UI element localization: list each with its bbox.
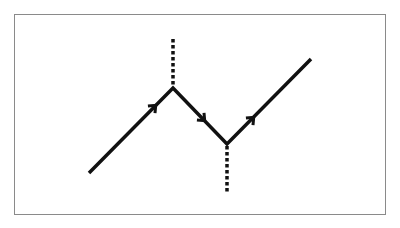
- zigzag-path: [89, 59, 311, 173]
- zigzag-diagram: [0, 0, 400, 228]
- direction-arrows: [148, 102, 257, 125]
